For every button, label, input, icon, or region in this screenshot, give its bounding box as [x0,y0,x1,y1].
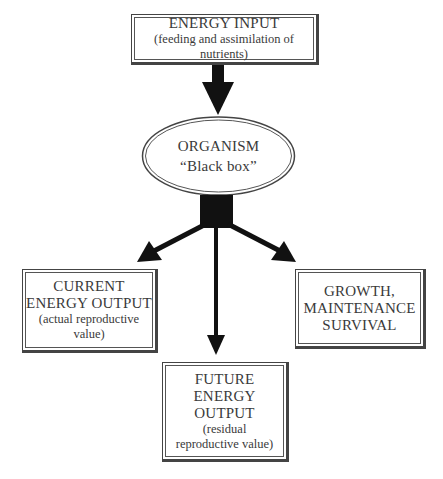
future-energy-output-box: FUTURE ENERGY OUTPUT (residual reproduct… [162,362,289,462]
input-arrow [202,64,234,115]
growth-line1: GROWTH, [324,283,395,300]
current-output-line1: CURRENT [53,278,124,295]
future-output-line2: ENERGY [193,388,255,405]
current-energy-output-box: CURRENT ENERGY OUTPUT (actual reproducti… [22,269,158,353]
future-output-sub2: reproductive value) [176,437,274,452]
future-output-line3: OUTPUT [194,405,254,422]
energy-input-box: ENERGY INPUT (feeding and assimilation o… [131,14,319,65]
current-output-arrow [137,224,206,262]
future-output-line1: FUTURE [195,371,255,388]
organism-title: ORGANISM [178,136,260,156]
growth-maintenance-box: GROWTH, MAINTENANCE SURVIVAL [295,269,426,349]
organism-subtitle: “Black box” [180,156,257,176]
organism-label: ORGANISM “Black box” [142,117,295,195]
future-output-arrow [207,226,225,355]
energy-input-subtitle: (feeding and assimilation of nutrients) [132,32,316,62]
energy-input-title: ENERGY INPUT [169,15,280,32]
current-output-sub2: value) [73,327,104,342]
future-output-sub1: (residual [203,422,247,437]
current-output-sub1: (actual reproductive [39,312,139,327]
current-output-line2: ENERGY OUTPUT [26,295,152,312]
growth-line2: MAINTENANCE [303,300,415,317]
growth-arrow [228,224,296,262]
growth-line3: SURVIVAL [322,317,396,334]
